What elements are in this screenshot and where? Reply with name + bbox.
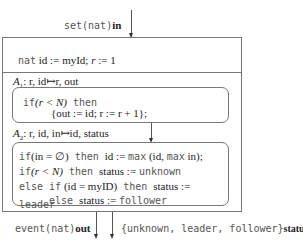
input-port-label: set(nat)in bbox=[64, 15, 121, 33]
init-divider bbox=[2, 72, 242, 73]
assign: status := bbox=[79, 194, 119, 206]
status-port-label: {unknown, leader, follower}status bbox=[121, 218, 303, 236]
action1-line2: {out := id; r := r + 1}; bbox=[51, 107, 147, 119]
out-keyword: event bbox=[15, 223, 45, 234]
out-type: (nat) bbox=[45, 223, 75, 234]
action2-label: A bbox=[13, 127, 20, 139]
value: follower bbox=[119, 195, 167, 206]
input-keyword: set bbox=[64, 20, 82, 31]
status-name: status bbox=[284, 223, 303, 234]
args-end: in); bbox=[185, 150, 203, 162]
else-keyword: else bbox=[49, 195, 79, 206]
init-statement: nat id := myId; r := 1 bbox=[18, 50, 116, 68]
action2-header: A2: r, id, in↦id, status bbox=[13, 127, 109, 142]
init-rest: := 1 bbox=[95, 54, 115, 66]
if-keyword: if bbox=[23, 97, 35, 108]
input-name: in bbox=[112, 19, 121, 31]
action1-box: if(r < N) then {out := id; r := r + 1}; bbox=[12, 87, 229, 123]
out-arrow-head-icon bbox=[94, 234, 98, 239]
status-type: {unknown, leader, follower} bbox=[121, 223, 284, 234]
action2-signature: : r, id, in↦id, status bbox=[23, 127, 108, 139]
action1-signature: : r, id↦r, out bbox=[23, 75, 78, 87]
status-arrow-head-icon bbox=[110, 234, 114, 239]
action1-label: A bbox=[13, 75, 20, 87]
action2-box: if(in = ∅) then id := max (id, max in); … bbox=[12, 142, 229, 206]
init-code: id := myId; bbox=[36, 54, 91, 66]
action2-line4: else status := follower bbox=[49, 190, 167, 208]
out-name: out bbox=[75, 222, 90, 234]
out-port-label: event(nat)out bbox=[15, 218, 91, 236]
init-keyword: nat bbox=[18, 55, 36, 66]
input-type: (nat) bbox=[82, 20, 112, 31]
